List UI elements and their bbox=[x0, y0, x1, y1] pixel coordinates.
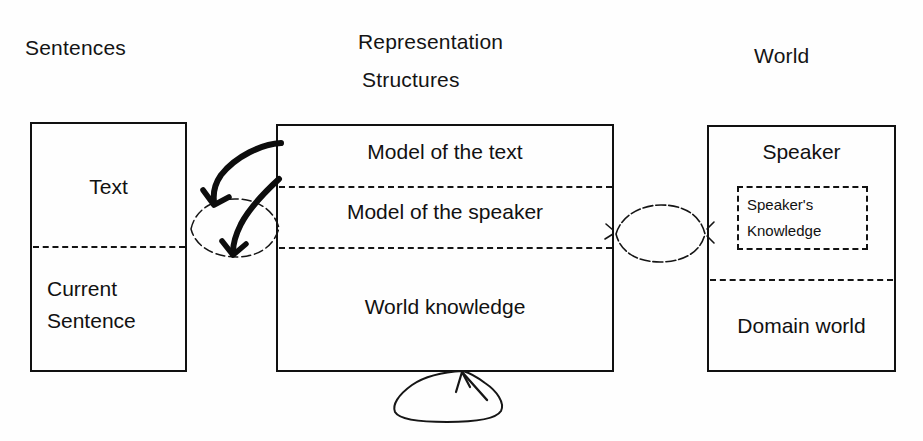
cell-label-current: Current bbox=[47, 276, 117, 302]
divider-world bbox=[710, 279, 893, 281]
cell-label-sentence: Sentence bbox=[47, 308, 136, 334]
arrow-lower-curved bbox=[222, 179, 279, 255]
right-lens-connector bbox=[605, 205, 714, 262]
header-representation-line2: Structures bbox=[362, 68, 460, 92]
cell-label-knowledge: Knowledge bbox=[747, 222, 821, 240]
cell-label-world-knowledge: World knowledge bbox=[276, 294, 614, 320]
left-lens-connector bbox=[191, 199, 279, 257]
cell-label-text: Text bbox=[30, 174, 187, 200]
header-world: World bbox=[754, 44, 809, 68]
diagram-canvas: Sentences Representation Structures Worl… bbox=[0, 0, 923, 441]
header-sentences: Sentences bbox=[25, 36, 126, 60]
divider-representation-upper bbox=[279, 186, 612, 188]
header-representation-line1: Representation bbox=[358, 30, 503, 54]
cell-label-model-of-the-speaker: Model of the speaker bbox=[276, 199, 614, 225]
bottom-blob-connector bbox=[394, 371, 502, 422]
arrow-upper-curved bbox=[203, 143, 281, 205]
divider-sentences bbox=[33, 246, 185, 248]
cell-label-speakers: Speaker's bbox=[747, 196, 813, 214]
cell-label-domain-world: Domain world bbox=[707, 313, 896, 339]
cell-label-model-of-the-text: Model of the text bbox=[276, 139, 614, 165]
cell-label-speaker: Speaker bbox=[707, 139, 896, 165]
divider-representation-lower bbox=[279, 247, 612, 249]
